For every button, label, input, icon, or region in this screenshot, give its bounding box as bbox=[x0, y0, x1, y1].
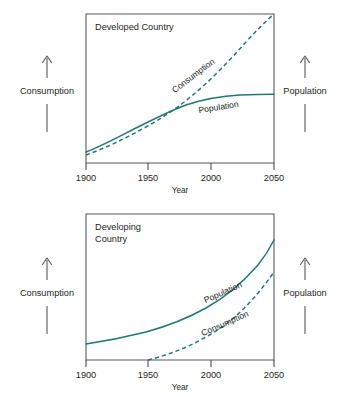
xtick-label-1950: 1950 bbox=[138, 173, 158, 183]
xtick-label-2000: 2000 bbox=[201, 173, 221, 183]
chart-panel-developed: 1900 1950 2000 2050 Year Developed Count… bbox=[0, 0, 339, 198]
xtick-label-2000: 2000 bbox=[201, 370, 221, 380]
right-axis-label: Population bbox=[283, 86, 326, 96]
series-consumption-line bbox=[148, 272, 274, 360]
two-panel-figure: 1900 1950 2000 2050 Year Developed Count… bbox=[0, 0, 339, 397]
left-axis-label: Consumption bbox=[20, 86, 74, 96]
curve-label-consumption: Consumption bbox=[170, 56, 217, 95]
curve-label-consumption: Consumption bbox=[200, 308, 251, 338]
curve-label-population: Population bbox=[202, 279, 243, 305]
panel-title-developing-line2: Country bbox=[95, 234, 128, 244]
panel-title-developing-line1: Developing bbox=[95, 222, 141, 232]
x-axis-title: Year bbox=[172, 186, 189, 195]
xtick-label-1900: 1900 bbox=[76, 370, 96, 380]
series-population-line bbox=[86, 240, 274, 344]
right-axis-label: Population bbox=[283, 288, 326, 298]
xtick-label-1900: 1900 bbox=[76, 173, 96, 183]
xtick-label-2050: 2050 bbox=[264, 173, 284, 183]
xtick-label-1950: 1950 bbox=[138, 370, 158, 380]
curve-label-population: Population bbox=[198, 99, 240, 115]
developed-country-chart: 1900 1950 2000 2050 Year Developed Count… bbox=[0, 0, 339, 198]
developing-country-chart: 1900 1950 2000 2050 Year Developing Coun… bbox=[0, 198, 339, 397]
panel-title-developed: Developed Country bbox=[95, 22, 174, 32]
xtick-label-2050: 2050 bbox=[264, 370, 284, 380]
left-axis-label: Consumption bbox=[20, 288, 74, 298]
x-axis-title: Year bbox=[172, 383, 189, 392]
chart-panel-developing: 1900 1950 2000 2050 Year Developing Coun… bbox=[0, 198, 339, 397]
